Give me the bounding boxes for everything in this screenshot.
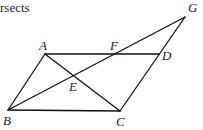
label-f: F	[109, 38, 119, 53]
label-b: B	[3, 113, 11, 128]
label-d: D	[161, 48, 172, 63]
parallelogram-diagram: G A F D E B C	[0, 0, 203, 130]
segment-ac	[45, 54, 120, 111]
segment-cg	[120, 17, 185, 111]
label-a: A	[38, 38, 47, 53]
label-g: G	[188, 0, 198, 15]
segment-bg	[8, 17, 185, 110]
segment-bc	[8, 110, 120, 111]
label-e: E	[68, 79, 77, 94]
label-c: C	[116, 114, 125, 129]
segment-ab	[8, 54, 45, 110]
